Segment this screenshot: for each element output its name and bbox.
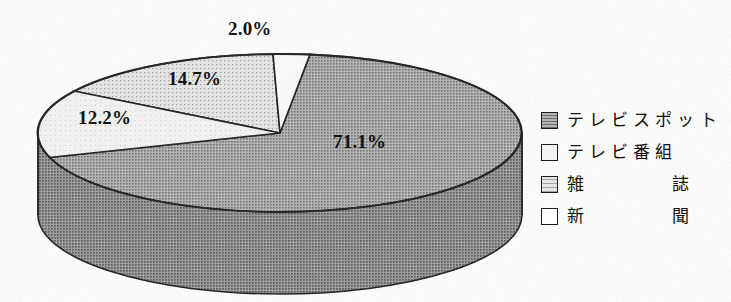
chart-legend: テレビスポット テレビ番組 雑 誌 新 聞 [541,104,727,232]
legend-item-shinbun: 新 聞 [541,200,727,232]
legend-item-terebi-bangumi: テレビ番組 [541,136,727,168]
pie-chart-figure: 2.0% 14.7% 12.2% 71.1% テレビスポット テレビ番組 雑 誌… [0,0,731,302]
legend-swatch-terebi-bangumi [541,144,558,161]
legend-label-shinbun-char-b: 聞 [672,208,689,225]
slice-value-label-terebi-bangumi: 12.2% [78,107,131,129]
pie-top-face [37,54,522,212]
slice-value-label-terebi-spot: 71.1% [333,131,386,153]
legend-label-zasshi: 雑 誌 [567,176,689,193]
legend-label-terebi-spot: テレビスポット [567,112,722,129]
legend-item-zasshi: 雑 誌 [541,168,727,200]
legend-label-zasshi-char-a: 雑 [567,176,584,193]
slice-value-label-zasshi: 14.7% [168,68,221,90]
legend-swatch-zasshi [541,176,558,193]
legend-swatch-terebi-spot [541,112,558,129]
legend-label-zasshi-char-b: 誌 [672,176,689,193]
legend-label-terebi-bangumi: テレビ番組 [567,144,678,161]
legend-label-shinbun: 新 聞 [567,208,689,225]
legend-swatch-shinbun [541,208,558,225]
legend-item-terebi-spot: テレビスポット [541,104,727,136]
legend-label-shinbun-char-a: 新 [567,208,584,225]
slice-value-label-shinbun: 2.0% [228,18,272,40]
